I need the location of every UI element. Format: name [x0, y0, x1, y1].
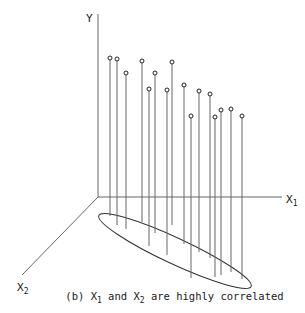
data-point: [219, 108, 223, 112]
data-stems: [110, 60, 242, 279]
data-point: [108, 56, 112, 60]
data-point: [165, 88, 169, 92]
data-point: [240, 114, 244, 118]
correlation-ellipse: [93, 204, 256, 299]
figure-caption: (b) X1 and X2 are highly correlated: [0, 290, 305, 305]
x1-axis-label: X1: [286, 193, 298, 208]
data-point: [213, 115, 217, 119]
data-point: [115, 57, 119, 61]
data-point: [153, 71, 157, 75]
data-point: [147, 87, 151, 91]
y-axis-label: Y: [86, 12, 93, 25]
data-point: [229, 107, 233, 111]
data-point: [208, 92, 212, 96]
data-point: [140, 59, 144, 63]
data-point: [182, 83, 186, 87]
data-point: [124, 71, 128, 75]
data-point: [170, 60, 174, 64]
correlation-3d-diagram: Y X1 X2: [0, 0, 305, 313]
data-points: [108, 56, 244, 119]
x2-axis: [22, 197, 98, 275]
data-point: [189, 114, 193, 118]
data-point: [197, 89, 201, 93]
